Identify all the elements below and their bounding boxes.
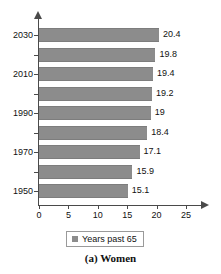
bar-value-label: 18.4: [151, 125, 169, 140]
y-axis-tick: [34, 35, 38, 36]
y-axis-tick: [34, 191, 38, 192]
x-axis-tick: [39, 205, 40, 209]
y-axis-label: 1950: [0, 184, 33, 198]
x-axis-tick: [98, 205, 99, 209]
bar-value-label: 17.1: [144, 144, 162, 159]
plot-area: 20.419.819.419.21918.417.115.915.1 20302…: [0, 0, 221, 222]
bar-value-label: 15.9: [136, 164, 154, 179]
bar: [39, 87, 152, 101]
y-axis-label: 1990: [0, 106, 33, 120]
legend-label: Years past 65: [82, 234, 137, 244]
x-axis-label: 10: [86, 210, 110, 221]
x-axis-label: 0: [27, 210, 51, 221]
x-axis-label: 5: [56, 210, 80, 221]
x-axis-tick: [157, 205, 158, 209]
y-axis-arrow-icon: [34, 11, 42, 19]
x-axis-label: 15: [115, 210, 139, 221]
bar-value-label: 20.4: [163, 27, 181, 42]
bar-value-label: 19.8: [159, 47, 177, 62]
bar: [39, 48, 155, 62]
bar: [39, 165, 132, 179]
bar-value-label: 15.1: [132, 183, 150, 198]
x-axis-label: 20: [145, 210, 169, 221]
bar-value-label: 19.4: [157, 66, 175, 81]
chart-legend: Years past 65: [66, 231, 144, 247]
legend-swatch-icon: [72, 236, 78, 242]
bar-value-label: 19.2: [156, 86, 174, 101]
figure-caption: (a) Women: [0, 252, 221, 265]
x-axis-tick: [186, 205, 187, 209]
bar: [39, 28, 159, 42]
figure-women-years-past-65: 20.419.819.419.21918.417.115.915.1 20302…: [0, 0, 221, 274]
y-axis-label: 2030: [0, 28, 33, 42]
y-axis-label: 2010: [0, 67, 33, 81]
bar-value-label: 19: [155, 105, 165, 120]
bar: [39, 67, 153, 81]
y-axis-tick: [34, 172, 38, 173]
y-axis-tick: [34, 94, 38, 95]
y-axis-tick: [34, 55, 38, 56]
x-axis-label: 25: [174, 210, 198, 221]
bar: [39, 145, 140, 159]
x-axis-tick: [127, 205, 128, 209]
y-axis-tick: [34, 133, 38, 134]
x-axis-tick: [68, 205, 69, 209]
x-axis-arrow-icon: [201, 201, 209, 209]
y-axis-label: 1970: [0, 145, 33, 159]
y-axis-tick: [34, 152, 38, 153]
x-axis-line: [38, 205, 202, 206]
y-axis-tick: [34, 113, 38, 114]
bar: [39, 184, 128, 198]
y-axis-tick: [34, 74, 38, 75]
bar: [39, 126, 147, 140]
bar: [39, 106, 151, 120]
